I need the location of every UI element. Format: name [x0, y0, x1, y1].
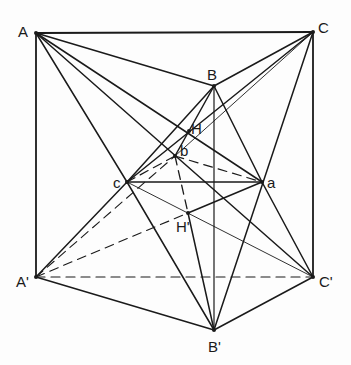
label-B-prime: B' [208, 338, 221, 355]
label-a: a [267, 174, 276, 191]
label-C: C [318, 19, 329, 36]
segment-B-a [214, 86, 262, 182]
label-H: H [191, 120, 202, 137]
label-b: b [180, 142, 188, 159]
diagram-svg: ACBHbcaH'A'C'B' [0, 0, 351, 365]
geometry-diagram: ACBHbcaH'A'C'B' [0, 0, 351, 365]
label-C-prime: C' [319, 273, 333, 290]
vertex-B-prime [212, 328, 216, 332]
label-layer: ACBHbcaH'A'C'B' [16, 19, 333, 355]
segment-A-a [36, 33, 262, 182]
label-B: B [207, 66, 217, 83]
vertex-H-prime [186, 211, 190, 215]
segment-b-a [175, 156, 262, 182]
segment-A-prime-H-prime [36, 213, 188, 277]
segment-c-b [127, 156, 175, 182]
vertex-c [125, 180, 129, 184]
segment-A-prime-b [36, 156, 175, 277]
label-A-prime: A' [16, 273, 29, 290]
segment-a-C-prime [262, 182, 313, 277]
vertex-A [34, 31, 38, 35]
vertex-B [212, 84, 216, 88]
label-H-prime: H' [176, 218, 190, 235]
vertex-b [173, 154, 177, 158]
segment-C-c [127, 32, 313, 182]
segment-H-prime-a [188, 182, 262, 213]
label-c: c [113, 174, 121, 191]
segment-A-C [36, 32, 313, 33]
label-A: A [18, 23, 28, 40]
vertex-A-prime [34, 275, 38, 279]
segment-c-A-prime [36, 182, 127, 277]
segment-H-prime-B-prime [188, 213, 214, 330]
vertex-C-prime [311, 275, 315, 279]
vertex-a [260, 180, 264, 184]
vertex-C [311, 30, 315, 34]
